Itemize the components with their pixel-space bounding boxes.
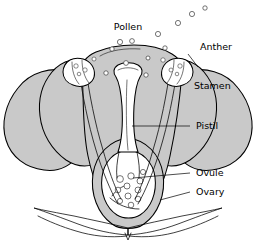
flower-anatomy-figure: Pollen Anther Stamen Pistil Ovule Ovary xyxy=(0,0,256,250)
pollen-grain xyxy=(189,11,194,16)
pollen-grain xyxy=(110,47,114,51)
pollen-grain xyxy=(163,46,167,50)
ovule xyxy=(117,176,124,183)
pollen-grain xyxy=(117,39,122,44)
flower-diagram-svg: Pollen Anther Stamen Pistil Ovule Ovary xyxy=(0,0,256,250)
label-pollen: Pollen xyxy=(114,21,142,32)
ovule xyxy=(124,183,130,189)
pollen-grain xyxy=(161,58,165,62)
pollen-grain xyxy=(203,6,207,10)
label-stamen: Stamen xyxy=(194,80,231,91)
pollen-grain xyxy=(146,56,150,60)
pollen-grain xyxy=(144,73,148,77)
pollen-grain xyxy=(104,71,108,75)
pollen-grain xyxy=(155,31,160,36)
label-pistil: Pistil xyxy=(196,120,218,131)
anther-left xyxy=(63,58,94,86)
label-ovary: Ovary xyxy=(196,186,225,197)
label-ovule: Ovule xyxy=(196,167,224,178)
ovule xyxy=(140,169,145,174)
ovule xyxy=(117,198,122,203)
ovule xyxy=(125,193,131,199)
anther-right xyxy=(162,58,193,86)
ovule xyxy=(128,202,134,208)
pollen-grain xyxy=(175,20,180,25)
pollen-grain xyxy=(124,61,129,66)
pollen-grain xyxy=(92,57,96,61)
pollen-grain xyxy=(130,39,135,44)
label-anther: Anther xyxy=(200,41,232,52)
